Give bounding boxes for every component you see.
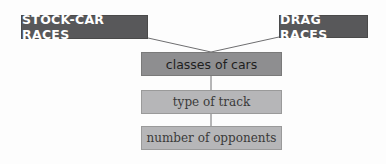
node-label: classes of cars — [166, 57, 257, 72]
connector-stockcar-to-classes — [148, 38, 211, 52]
node-label: number of opponents — [146, 131, 276, 145]
node-stock-car-races: STOCK-CAR RACES — [21, 15, 148, 39]
connector-drag-to-classes — [211, 37, 279, 52]
node-label: DRAG RACES — [280, 12, 367, 42]
node-type-of-track: type of track — [141, 90, 282, 114]
node-number-of-opponents: number of opponents — [141, 126, 282, 150]
node-label: STOCK-CAR RACES — [22, 12, 147, 42]
node-classes-of-cars: classes of cars — [141, 52, 282, 76]
node-drag-races: DRAG RACES — [279, 15, 368, 38]
node-label: type of track — [173, 95, 250, 109]
